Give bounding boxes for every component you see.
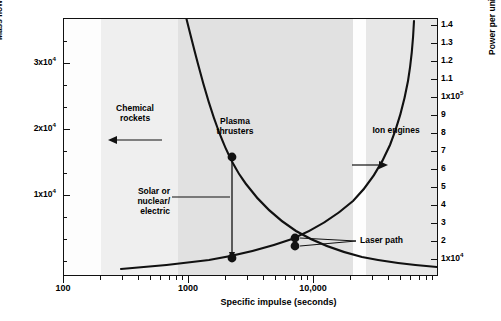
right-tick-label-3: 3: [441, 217, 446, 227]
figure-plasma-propulsion-chart: Mass flow rate per unit thrust (kg·s-1·N…: [0, 0, 501, 321]
right-tick-label-1e5-mantissa: 1x10: [441, 91, 460, 101]
right-tick-1p1: [431, 79, 438, 80]
right-tick-label-1e5-exp: 5: [460, 89, 463, 96]
right-tick-label-4-mantissa: 4: [441, 199, 446, 209]
left-tick-minor-8: [63, 261, 67, 262]
x-tick-minor-40000: [388, 276, 389, 280]
x-tick-minor-30000: [372, 276, 373, 280]
right-tick-9: [431, 115, 438, 116]
right-tick-label-2-mantissa: 2: [441, 235, 446, 245]
x-tick-minor-90000: [432, 276, 433, 280]
right-tick-label-1p3-mantissa: 1.3: [441, 37, 453, 47]
x-axis-title-text: Specific impulse (seconds): [220, 297, 336, 307]
right-tick-label-5: 5: [441, 181, 446, 191]
left-tick-minor-6: [63, 217, 67, 218]
left-tick-minor-3: [63, 107, 67, 108]
right-axis-title: Power per unit thrust (W/N): [487, 0, 497, 55]
x-tick-minor-400: [138, 276, 139, 280]
right-tick-1e4: [431, 259, 438, 260]
x-tick-minor-200: [100, 276, 101, 280]
left-tick-label-1e4: 1x104: [12, 189, 56, 199]
right-tick-7: [431, 151, 438, 152]
left-tick-label-3e4-mantissa: 3x10: [34, 57, 53, 67]
plot-area: Chemical rockets Plasma thrusters Ion en…: [63, 18, 438, 276]
left-tick-label-3e4-exp: 4: [53, 55, 56, 62]
right-tick-1p4: [431, 25, 438, 26]
x-tick-minor-7000: [294, 276, 295, 280]
marker-laser-path-lower: [291, 242, 300, 251]
right-tick-label-3-mantissa: 3: [441, 217, 446, 227]
region-label-ion-engines: Ion engines: [354, 125, 438, 135]
right-tick-2: [431, 241, 438, 242]
right-tick-label-1p2: 1.2: [441, 55, 453, 65]
x-tick-minor-300: [122, 276, 123, 280]
right-tick-8: [431, 133, 438, 134]
right-tick-label-9: 9: [441, 109, 446, 119]
x-tick-label-100: 100: [43, 283, 83, 293]
left-axis-title: Mass flow rate per unit thrust (kg·s-1·N…: [0, 0, 4, 40]
x-tick-minor-900: [182, 276, 183, 280]
annotation-laser-path: Laser path: [360, 235, 403, 245]
x-tick-minor-6000: [285, 276, 286, 280]
right-tick-label-6: 6: [441, 163, 446, 173]
right-tick-1e5: [431, 97, 438, 98]
x-tick-major-100: [63, 276, 64, 283]
x-tick-minor-3000: [247, 276, 248, 280]
left-tick-minor-7: [63, 239, 67, 240]
x-tick-label-10000: 10,000: [287, 283, 339, 293]
left-tick-major-1e4: [63, 195, 70, 196]
region-label-chemical-rockets-line1: Chemical: [116, 103, 154, 113]
left-tick-label-2e4: 2x104: [12, 123, 56, 133]
right-tick-label-1e4-exp: 4: [460, 251, 463, 258]
region-label-plasma-thrusters-line1: Plasma: [220, 116, 250, 126]
x-tick-minor-4000: [263, 276, 264, 280]
right-tick-label-1e4-mantissa: 1x10: [441, 253, 460, 263]
x-tick-minor-60000: [410, 276, 411, 280]
right-tick-label-8: 8: [441, 127, 446, 137]
region-label-chemical-rockets-line2: rockets: [120, 113, 150, 123]
right-tick-label-1p1-mantissa: 1.1: [441, 73, 453, 83]
x-tick-label-1000: 1000: [165, 283, 211, 293]
left-tick-label-1e4-exp: 4: [53, 187, 56, 194]
leader-laser-path-lower: [300, 241, 356, 246]
x-tick-minor-2000: [225, 276, 226, 280]
right-tick-label-1p1: 1.1: [441, 73, 453, 83]
region-label-ion-engines-line1: Ion engines: [372, 125, 419, 135]
x-tick-minor-50000: [400, 276, 401, 280]
right-tick-label-8-mantissa: 8: [441, 127, 446, 137]
right-tick-4: [431, 205, 438, 206]
left-tick-minor-1: [63, 41, 67, 42]
region-label-plasma-thrusters: Plasma thrusters: [192, 116, 278, 136]
x-tick-minor-70000: [419, 276, 420, 280]
x-tick-minor-20000: [350, 276, 351, 280]
x-tick-minor-8000: [301, 276, 302, 280]
curve-power-per-thrust: [121, 21, 414, 269]
x-tick-minor-80000: [426, 276, 427, 280]
marker-laser-path-upper: [291, 234, 300, 243]
left-tick-major-3e4: [63, 63, 70, 64]
arrow-ion-engines-head: [379, 161, 388, 169]
left-tick-label-2e4-mantissa: 2x10: [34, 123, 53, 133]
right-tick-label-1e5: 1x105: [441, 91, 463, 101]
left-tick-label-3e4: 3x104: [12, 57, 56, 67]
right-tick-5: [431, 187, 438, 188]
x-axis-title: Specific impulse (seconds): [0, 297, 501, 307]
annotation-solar-line2: nuclear/: [137, 196, 170, 206]
right-tick-label-4: 4: [441, 199, 446, 209]
annotation-solar-line3: electric: [140, 206, 170, 216]
arrow-chemical-rockets-head: [108, 136, 117, 144]
left-tick-label-2e4-exp: 4: [53, 121, 56, 128]
annotation-laser-path-label: Laser path: [360, 235, 403, 245]
annotation-solar-line1: Solar or: [138, 186, 170, 196]
right-tick-label-1p4-mantissa: 1.4: [441, 19, 453, 29]
left-tick-minor-5: [63, 173, 67, 174]
x-tick-major-10000: [313, 276, 314, 283]
right-tick-label-9-mantissa: 9: [441, 109, 446, 119]
x-tick-minor-5000: [275, 276, 276, 280]
x-tick-minor-9000: [307, 276, 308, 280]
right-tick-label-1e4: 1x104: [441, 253, 463, 263]
left-tick-major-2e4: [63, 129, 70, 130]
x-tick-minor-800: [176, 276, 177, 280]
right-tick-label-2: 2: [441, 235, 446, 245]
right-tick-label-1p3: 1.3: [441, 37, 453, 47]
